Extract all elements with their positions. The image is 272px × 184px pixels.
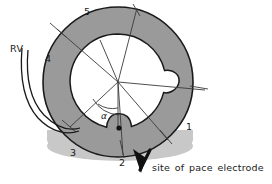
label-segment-4: 4 — [45, 54, 51, 64]
label-segment-5: 5 — [84, 7, 90, 17]
pace-electrode-marker — [116, 125, 121, 130]
label-angle-alpha: α — [101, 112, 107, 121]
figure-container: RV 4 5 1 2 3 α site of pace electrode — [0, 0, 272, 184]
cross-section-diagram — [0, 0, 272, 184]
caption-site-of-pace-electrode: site of pace electrode — [152, 163, 264, 173]
label-segment-1: 1 — [186, 122, 192, 132]
label-segment-3: 3 — [70, 148, 76, 158]
label-segment-2: 2 — [119, 158, 125, 168]
label-rv: RV — [10, 44, 24, 54]
